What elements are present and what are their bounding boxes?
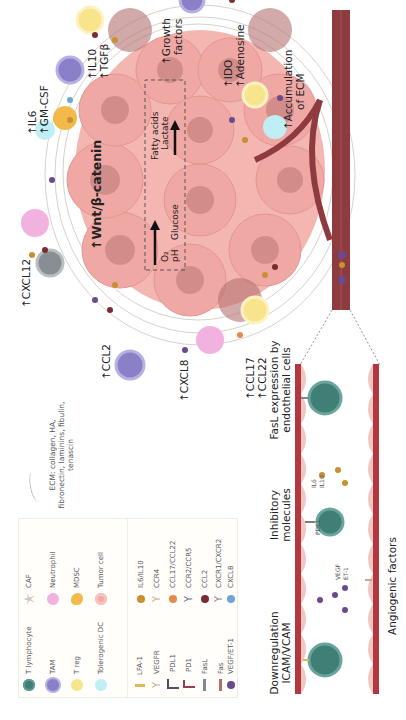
- label-of-ecm: of ECM: [294, 74, 306, 110]
- label-lactate: Lactate: [160, 116, 170, 150]
- label-pdl1-small: PDL1: [314, 520, 321, 535]
- label-tgfb: ↑TGFβ: [98, 44, 110, 80]
- label-inhibitory: Inhibitory: [268, 470, 280, 560]
- label-ccl22: ↑CCL22: [256, 357, 268, 400]
- label-wnt-beta-catenin: ↑Wnt/β-catenin: [90, 140, 104, 250]
- label-fatty-acids: Fatty acids: [150, 112, 160, 160]
- label-cxcl12: ↑CXCL12: [20, 259, 32, 308]
- label-il6-small: IL6: [310, 479, 317, 488]
- label-factors: factors: [172, 19, 184, 55]
- label-ccl2: ↑CCL2: [100, 344, 112, 380]
- label-et1-small: ET-1: [342, 567, 349, 580]
- label-endothelial-cells: endothelial cells: [280, 330, 292, 450]
- label-il6: ↑IL6: [26, 111, 38, 135]
- label-accumulation: ↑Accumulation: [282, 50, 294, 130]
- label-molecules: molecules: [280, 470, 292, 560]
- label-il10-small: IL10: [318, 475, 325, 488]
- vessel-panel: [295, 364, 379, 694]
- label-il10: ↑IL10: [86, 49, 98, 80]
- label-ido: ↑IDO: [222, 60, 234, 88]
- label-ph: pH: [170, 250, 180, 262]
- label-gm-csf: ↑GM-CSF: [38, 85, 50, 135]
- label-vegf-small: VEGF: [334, 564, 341, 580]
- tumor-illustration: [0, 0, 406, 720]
- diagram-canvas: T lymphocyte TAM T reg Tolerogenic DC CA…: [0, 0, 406, 720]
- label-glucose: Glucose: [170, 204, 180, 240]
- label-angiogenic-factors: Angiogenic factors: [386, 537, 398, 635]
- label-ccl17: ↑CCL17: [244, 357, 256, 400]
- label-downregulation: Downregulation: [268, 608, 280, 698]
- label-fasl-expression: FasL expression by: [268, 330, 280, 450]
- label-icam-vcam: ICAM/VCAM: [280, 608, 292, 698]
- label-growth: ↑Growth: [160, 18, 172, 65]
- label-cxcl8: ↑CXCL8: [178, 360, 190, 402]
- label-o2: O₂: [160, 251, 170, 262]
- label-adenosine: ↑Adenosine: [234, 24, 246, 88]
